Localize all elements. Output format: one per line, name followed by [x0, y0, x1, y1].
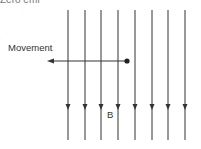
movement-arrow [47, 58, 130, 63]
arrow-down-icon [150, 104, 155, 110]
arrow-down-icon [66, 104, 71, 110]
conductor-dot-icon [124, 58, 129, 63]
arrow-down-icon [116, 104, 121, 110]
arrow-down-icon [183, 104, 188, 110]
field-lines [66, 10, 188, 140]
movement-label: Movement [8, 42, 52, 53]
field-label-b: B [107, 109, 113, 120]
arrow-down-icon [166, 104, 171, 110]
arrow-down-icon [83, 104, 88, 110]
arrowhead-left-icon [47, 59, 54, 64]
arrow-down-icon [133, 104, 138, 110]
arrow-down-icon [99, 104, 104, 110]
magnetic-field-diagram [0, 0, 201, 149]
